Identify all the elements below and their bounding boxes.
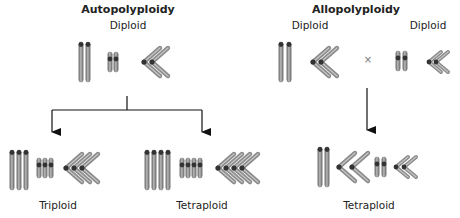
polyploidy-diagram [0, 0, 460, 218]
allo-tetraploid-chromosomes [318, 147, 416, 187]
allo-parent-a-chromosomes [279, 42, 337, 82]
auto-tetraploid-chromosomes [145, 150, 258, 190]
triploid-chromosomes [10, 150, 98, 190]
auto-branch-arrows [52, 96, 202, 132]
auto-diploid-chromosomes [79, 42, 168, 82]
allo-parent-b-chromosomes [396, 51, 448, 72]
